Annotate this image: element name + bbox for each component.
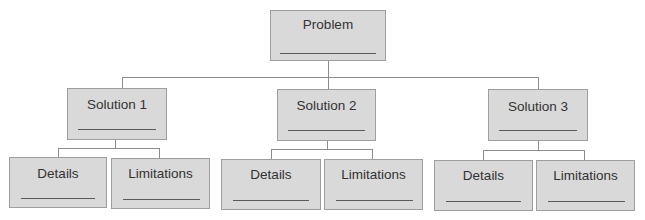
connector-solution-1-limitations: [159, 148, 160, 158]
connector-solution-2-limitations: [372, 149, 373, 159]
problem-blank-line[interactable]: [280, 53, 376, 54]
solution-1-limitations-label: Limitations: [112, 166, 209, 182]
connector-solutions-bar: [122, 77, 539, 78]
solution-3-blank-line[interactable]: [499, 130, 577, 131]
connector-solution-3-details: [483, 150, 484, 160]
solution-1-details-box: Details: [9, 157, 107, 208]
solution-2-box: Solution 2: [277, 89, 376, 141]
solution-2-details-box: Details: [221, 159, 321, 210]
solution-3-box: Solution 3: [488, 89, 588, 141]
solution-3-details-box: Details: [434, 160, 533, 211]
connector-to-solution-1: [122, 77, 123, 88]
solution-2-limitations-box: Limitations: [324, 159, 423, 210]
solution-1-details-label: Details: [10, 166, 106, 182]
solution-1-details-blank-line[interactable]: [21, 198, 95, 199]
solution-1-box: Solution 1: [67, 88, 167, 140]
solution-2-details-label: Details: [222, 167, 320, 183]
solution-2-limitations-blank-line[interactable]: [336, 200, 413, 201]
solution-3-details-label: Details: [435, 168, 532, 184]
connector-root-down: [328, 61, 329, 78]
solution-3-limitations-blank-line[interactable]: [548, 201, 625, 202]
connector-solution-3-bar: [483, 150, 585, 151]
connector-solution-1-bar: [58, 148, 160, 149]
solution-1-label: Solution 1: [68, 97, 166, 113]
problem-box: Problem: [270, 10, 386, 61]
connector-solution-2-bar: [271, 149, 373, 150]
solution-2-details-blank-line[interactable]: [233, 200, 309, 201]
solution-2-limitations-label: Limitations: [325, 167, 422, 183]
solution-3-limitations-box: Limitations: [536, 160, 635, 211]
solution-3-label: Solution 3: [489, 99, 587, 115]
connector-to-solution-3: [538, 77, 539, 89]
solution-2-label: Solution 2: [278, 98, 375, 114]
solution-3-limitations-label: Limitations: [537, 168, 634, 184]
solution-1-limitations-blank-line[interactable]: [123, 199, 200, 200]
solution-3-details-blank-line[interactable]: [446, 201, 521, 202]
solution-1-blank-line[interactable]: [78, 129, 156, 130]
problem-label: Problem: [271, 17, 385, 33]
connector-to-solution-2: [328, 77, 329, 89]
connector-solution-3-limitations: [584, 150, 585, 160]
connector-solution-2-details: [271, 149, 272, 159]
solution-2-blank-line[interactable]: [288, 130, 365, 131]
connector-solution-1-details: [58, 148, 59, 157]
problem-solution-tree-diagram: Problem Solution 1 Details Limitations S…: [0, 0, 645, 220]
solution-1-limitations-box: Limitations: [111, 158, 210, 209]
